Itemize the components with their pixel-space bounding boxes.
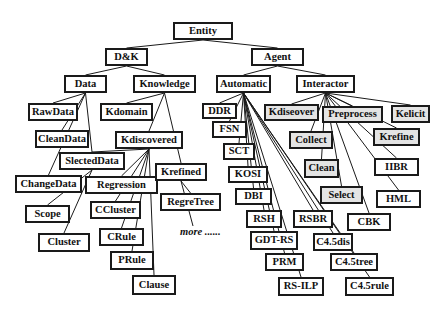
node-kdiscovered: Kdiscovered — [115, 131, 183, 149]
node-gdtrs: GDT-RS — [250, 231, 298, 250]
node-preprocess: Preprocess — [322, 106, 383, 123]
node-rsbr: RSBR — [293, 210, 333, 228]
node-dbi: DBI — [235, 188, 272, 205]
node-kdomain: Kdomain — [100, 103, 153, 121]
node-regretree: RegreTree — [160, 193, 221, 211]
node-collect: Collect — [289, 131, 333, 149]
more-annotation: more ...... — [180, 226, 221, 237]
node-kelicit: Kelicit — [391, 105, 430, 123]
edge-dk-knowledge — [127, 66, 165, 75]
node-slecteddata: SlectedData — [59, 152, 125, 170]
edge-dk-data — [86, 66, 127, 75]
edge-knowledge-krefined — [165, 93, 182, 163]
node-agent: Agent — [251, 48, 304, 66]
edge-agent-interactor — [278, 66, 326, 75]
edge-entity-agent — [203, 40, 278, 48]
node-sct: SCT — [223, 143, 255, 160]
edge-knowledge-kdomain — [127, 93, 165, 103]
node-knowledge: Knowledge — [133, 75, 196, 93]
node-krefine: Krefine — [373, 128, 420, 146]
node-rawdata: RawData — [28, 103, 78, 121]
node-automatic: Automatic — [216, 75, 271, 93]
node-kdiseover: Kdiseover — [264, 104, 319, 121]
edge-entity-dk — [127, 40, 204, 48]
node-cleandata: CleanData — [35, 130, 89, 148]
node-kosi: KOSI — [228, 166, 268, 183]
node-clean: Clean — [304, 159, 339, 178]
node-prule: PRule — [110, 251, 154, 270]
node-crule: CRule — [99, 228, 144, 246]
node-changedata: ChangeData — [15, 175, 82, 193]
agent-entity-hierarchy-diagram: EntityD&KAgentDataKnowledgeAutomaticInte… — [0, 0, 441, 315]
node-iibr: IIBR — [374, 158, 419, 176]
node-hml: HML — [376, 190, 421, 208]
node-rsilp: RS-ILP — [278, 277, 324, 296]
node-prm: PRM — [265, 253, 304, 271]
node-fsn: FSN — [212, 121, 247, 138]
edge-interactor-kdiseover — [292, 93, 326, 104]
node-interactor: Interactor — [296, 75, 355, 93]
node-cbk: CBK — [347, 213, 391, 231]
node-c45rule: C4.5rule — [345, 277, 394, 296]
node-ddr: DDR — [202, 103, 237, 119]
edge-interactor-iibr — [326, 93, 397, 158]
node-clause: Clause — [132, 275, 176, 295]
node-ccluster: CCluster — [90, 201, 141, 219]
edge-agent-automatic — [244, 66, 278, 75]
node-entity: Entity — [173, 22, 233, 40]
node-c45tree: C4.5tree — [330, 253, 378, 271]
node-scope: Scope — [25, 205, 70, 223]
node-cluster: Cluster — [38, 233, 90, 252]
node-regression: Regression — [85, 176, 158, 194]
node-krefined: Krefined — [155, 163, 207, 181]
node-c45dis: C4.5dis — [313, 233, 353, 251]
node-dk: D&K — [105, 48, 148, 66]
node-select: Select — [320, 186, 363, 204]
node-rsh: RSH — [246, 210, 282, 228]
edge-automatic-ddr — [220, 93, 244, 103]
node-data: Data — [64, 75, 107, 93]
